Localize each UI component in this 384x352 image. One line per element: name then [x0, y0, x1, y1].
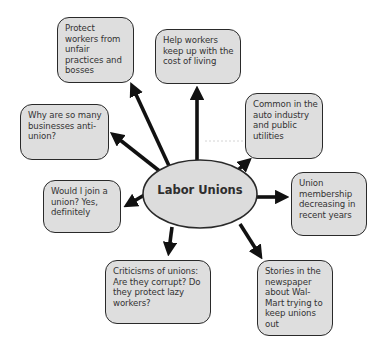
node-walmart: Stories in the newspaper about Wal-Mart …: [257, 260, 333, 336]
arrow-to-anti-union: [115, 136, 162, 173]
node-criticisms: Criticisms of unions: Are they corrupt? …: [105, 260, 211, 324]
node-anti-union: Why are so many businesses anti-union?: [20, 104, 109, 160]
node-common-industries: Common in the auto industry and public u…: [245, 93, 323, 159]
node-cost-of-living: Help workers keep up with the cost of li…: [155, 29, 241, 84]
arrow-to-walmart: [240, 224, 259, 254]
center-label: Labor Unions: [143, 183, 257, 197]
node-membership: Union membership decreasing in recent ye…: [291, 172, 367, 236]
node-join: Would I join a union? Yes, definitely: [43, 180, 121, 233]
node-protect: Protect workers from unfair practices an…: [57, 17, 134, 83]
arrow-to-criticisms: [169, 227, 172, 250]
